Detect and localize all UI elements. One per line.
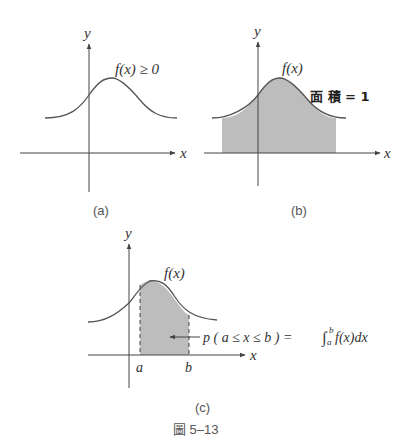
panel-label: (c) [195,400,210,415]
integral-lower: a [327,337,332,347]
x-axis-label: x [249,347,257,363]
integral-upper: b [329,325,334,335]
panel-b: x y f(x) 面 積 = 1 (b) [204,23,391,218]
y-axis-label: y [123,225,132,241]
x-axis-label: x [179,145,187,161]
y-axis-label: y [82,25,91,41]
shaded-area [140,280,189,355]
density-curve [45,78,177,118]
bound-a-label: a [136,360,143,375]
formula-rhs: f(x)dx [335,330,368,346]
curve-label: f(x) [164,265,185,282]
figure-caption: 圖 5–13 [173,422,219,437]
y-axis-label: y [252,23,261,39]
area-label: 面 積 = 1 [310,89,370,104]
bound-b-label: b [185,360,192,375]
formula-lhs: p ( a ≤ x ≤ b ) = [202,330,292,346]
panel-label: (b) [291,203,307,218]
probability-formula: p ( a ≤ x ≤ b ) = ∫ b a f(x)dx [202,325,368,348]
panel-c: x y f(x) a b p ( a ≤ x ≤ b ) = ∫ b a f(x… [88,225,368,415]
panel-a: x y f(x) ≥ 0 (a) [20,25,187,218]
curve-label: f(x) ≥ 0 [115,61,160,78]
figure-5-13: x y f(x) ≥ 0 (a) x y f(x) 面 積 = 1 (b) x … [0,0,404,443]
curve-label: f(x) [282,60,303,77]
x-axis-label: x [383,145,391,161]
panel-label: (a) [93,203,109,218]
